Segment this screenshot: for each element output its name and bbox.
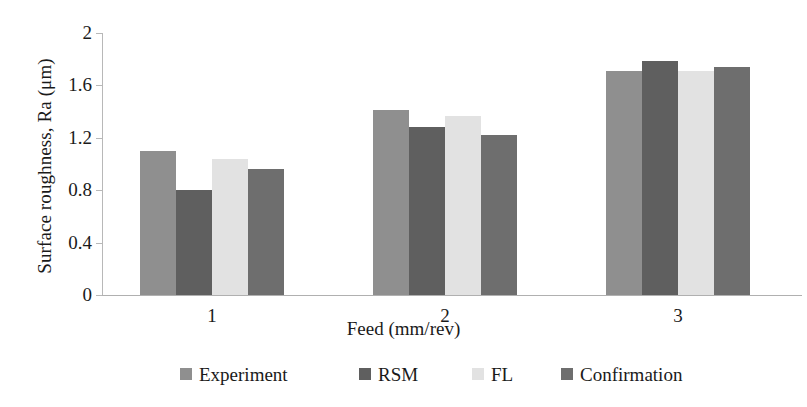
y-tick-label: 0	[32, 285, 92, 304]
bar	[409, 127, 445, 295]
y-tick-mark	[96, 295, 102, 296]
bar	[140, 151, 176, 295]
x-axis-line	[102, 295, 802, 296]
bar	[481, 135, 517, 295]
y-tick-mark	[96, 243, 102, 244]
y-tick-label: 2	[32, 23, 92, 42]
legend-swatch-icon	[180, 368, 192, 380]
chart-legend: ExperimentRSMFLConfirmation	[0, 365, 807, 387]
bar	[248, 169, 284, 295]
bar	[373, 110, 409, 295]
y-tick-mark	[96, 33, 102, 34]
y-tick-mark	[96, 138, 102, 139]
y-axis-title: Surface roughness, Ra (μm)	[34, 16, 56, 316]
legend-swatch-icon	[359, 368, 371, 380]
legend-swatch-icon	[472, 368, 484, 380]
legend-item[interactable]: Experiment	[180, 365, 288, 387]
bar	[714, 67, 750, 295]
bar-chart-figure: Surface roughness, Ra (μm) 00.40.81.21.6…	[0, 0, 807, 407]
legend-label: RSM	[378, 365, 418, 385]
y-tick-label: 1.2	[32, 128, 92, 147]
y-tick-label: 0.8	[32, 180, 92, 199]
plot-area: 00.40.81.21.62 123	[102, 33, 802, 295]
legend-item[interactable]: RSM	[359, 365, 418, 387]
y-tick-mark	[96, 85, 102, 86]
bar	[176, 190, 212, 295]
legend-swatch-icon	[561, 368, 573, 380]
bar	[642, 61, 678, 295]
y-tick-label: 1.6	[32, 75, 92, 94]
bar	[212, 159, 248, 295]
x-axis-title: Feed (mm/rev)	[0, 318, 807, 340]
legend-item[interactable]: FL	[472, 365, 513, 387]
legend-item[interactable]: Confirmation	[561, 365, 682, 387]
bar	[445, 116, 481, 295]
legend-label: Confirmation	[580, 365, 682, 385]
legend-label: FL	[491, 365, 513, 385]
legend-label: Experiment	[199, 365, 288, 385]
y-axis-line	[102, 33, 103, 295]
bar	[678, 71, 714, 295]
bar	[606, 71, 642, 295]
y-tick-label: 0.4	[32, 233, 92, 252]
y-tick-mark	[96, 190, 102, 191]
